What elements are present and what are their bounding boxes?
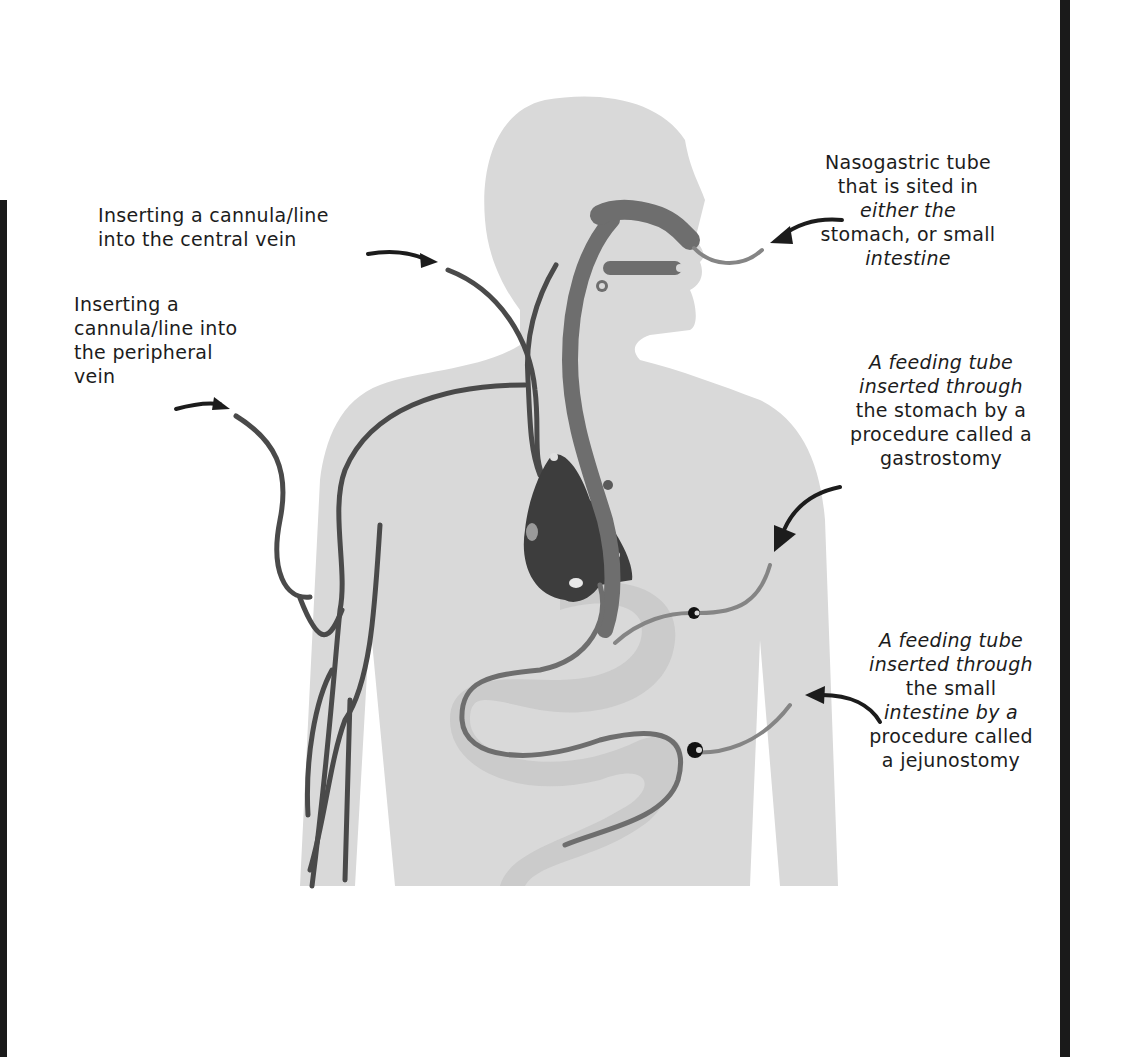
label-line: procedure called a [825,422,1057,446]
label-line: Inserting a cannula/line [98,203,329,227]
label-line: intestine [798,246,1018,270]
label-line: the small [845,676,1057,700]
label-line: stomach, or small [798,222,1018,246]
label-line: the peripheral [74,340,237,364]
label-line: inserted through [825,374,1057,398]
label-central-vein: Inserting a cannula/line into the centra… [98,203,329,251]
label-jejunostomy: A feeding tube inserted through the smal… [845,628,1057,772]
label-line: procedure called [845,724,1057,748]
label-nasogastric: Nasogastric tube that is sited in either… [798,150,1018,270]
label-line: that is sited in [798,174,1018,198]
label-line: A feeding tube [825,350,1057,374]
label-line: A feeding tube [845,628,1057,652]
label-gastrostomy: A feeding tube inserted through the stom… [825,350,1057,470]
label-line: gastrostomy [825,446,1057,470]
label-line: a jejunostomy [845,748,1057,772]
label-line: into the central vein [98,227,329,251]
label-line: inserted through [845,652,1057,676]
label-line: Inserting a [74,292,237,316]
label-peripheral-vein: Inserting a cannula/line into the periph… [74,292,237,388]
label-line: either the [798,198,1018,222]
label-line: Nasogastric tube [798,150,1018,174]
label-line: vein [74,364,237,388]
label-line: intestine by a [845,700,1057,724]
label-line: the stomach by a [825,398,1057,422]
label-line: cannula/line into [74,316,237,340]
arrow-central-vein [368,252,428,260]
